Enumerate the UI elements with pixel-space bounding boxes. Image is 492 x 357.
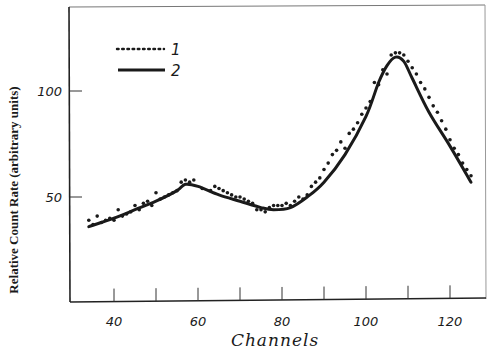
data-point — [87, 219, 91, 223]
y-axis — [69, 7, 70, 302]
x-tick-label: 60 — [190, 314, 207, 329]
data-point — [125, 212, 129, 216]
data-point — [377, 83, 381, 87]
data-point — [200, 187, 204, 191]
data-point — [305, 193, 309, 197]
data-point — [116, 208, 120, 212]
data-point — [431, 104, 435, 108]
data-point — [406, 60, 410, 64]
data-point — [104, 219, 108, 223]
data-point — [469, 174, 473, 178]
data-point — [415, 72, 419, 76]
x-tick-labels: 406080100120 — [106, 314, 463, 329]
x-tick-label: 100 — [354, 314, 379, 329]
data-point — [352, 127, 356, 131]
data-point — [179, 180, 183, 184]
y-ticks — [70, 91, 82, 197]
data-point — [343, 146, 347, 150]
data-point — [394, 51, 398, 55]
data-point — [226, 191, 230, 195]
y-axis-label: Relative Count Rate (arbitrary units) — [6, 86, 21, 293]
data-point — [318, 176, 322, 180]
data-point — [452, 146, 456, 150]
series-1-points — [87, 51, 473, 226]
data-point — [142, 202, 146, 206]
data-point — [154, 191, 158, 195]
data-point — [184, 178, 188, 182]
data-point — [192, 178, 196, 182]
data-point — [289, 204, 293, 208]
data-point — [310, 185, 314, 189]
data-point — [402, 53, 406, 57]
data-point — [427, 96, 431, 100]
data-point — [322, 168, 326, 172]
data-point — [171, 191, 175, 195]
data-point — [297, 195, 301, 199]
data-point — [360, 113, 364, 117]
data-point — [436, 110, 440, 114]
data-point — [268, 206, 272, 210]
x-tick-label: 40 — [106, 314, 123, 329]
data-point — [448, 138, 452, 142]
data-point — [213, 185, 217, 189]
data-point — [238, 195, 242, 199]
chart: 406080100120 50100 1 2 Relative Count Ra… — [0, 0, 492, 357]
data-point — [247, 199, 251, 203]
data-point — [146, 199, 150, 203]
data-point — [167, 193, 171, 197]
data-point — [326, 161, 330, 165]
data-point — [465, 168, 469, 172]
data-point — [301, 197, 305, 201]
y-tick-label: 100 — [37, 84, 62, 99]
legend-label-1: 1 — [171, 41, 181, 59]
data-point — [385, 72, 389, 76]
x-tick-label: 80 — [274, 314, 291, 329]
data-point — [158, 197, 162, 201]
data-point — [444, 127, 448, 131]
x-tick-label: 120 — [438, 314, 463, 329]
data-point — [457, 153, 461, 157]
data-point — [314, 180, 318, 184]
data-point — [108, 216, 112, 220]
data-point — [364, 106, 368, 110]
data-point — [259, 208, 263, 212]
data-point — [163, 195, 167, 199]
data-point — [234, 195, 238, 199]
data-point — [188, 180, 192, 184]
data-point — [280, 204, 284, 208]
legend: 1 2 — [117, 41, 181, 80]
y-tick-label: 50 — [45, 190, 62, 205]
data-point — [335, 149, 339, 153]
frame-right — [485, 5, 486, 299]
data-point — [331, 153, 335, 157]
data-point — [112, 219, 116, 223]
data-point — [133, 204, 137, 208]
data-point — [389, 53, 393, 57]
data-point — [129, 210, 133, 214]
data-point — [95, 214, 99, 218]
data-point — [272, 204, 276, 208]
data-point — [263, 210, 267, 214]
data-point — [242, 197, 246, 201]
data-point — [339, 140, 343, 144]
legend-label-2: 2 — [171, 62, 181, 80]
x-axis-label: Channels — [231, 330, 319, 350]
data-point — [381, 68, 385, 72]
data-point — [373, 81, 377, 85]
data-point — [100, 221, 104, 225]
data-point — [398, 51, 402, 55]
data-point — [440, 119, 444, 123]
frame-top — [69, 5, 485, 7]
data-point — [461, 161, 465, 165]
x-axis — [70, 298, 486, 302]
data-point — [121, 214, 125, 218]
data-point — [347, 132, 351, 136]
data-point — [419, 81, 423, 85]
data-point — [137, 208, 141, 212]
data-point — [221, 189, 225, 193]
data-point — [175, 189, 179, 193]
data-point — [209, 189, 213, 193]
data-point — [255, 208, 259, 212]
data-point — [423, 87, 427, 91]
data-point — [293, 199, 297, 203]
